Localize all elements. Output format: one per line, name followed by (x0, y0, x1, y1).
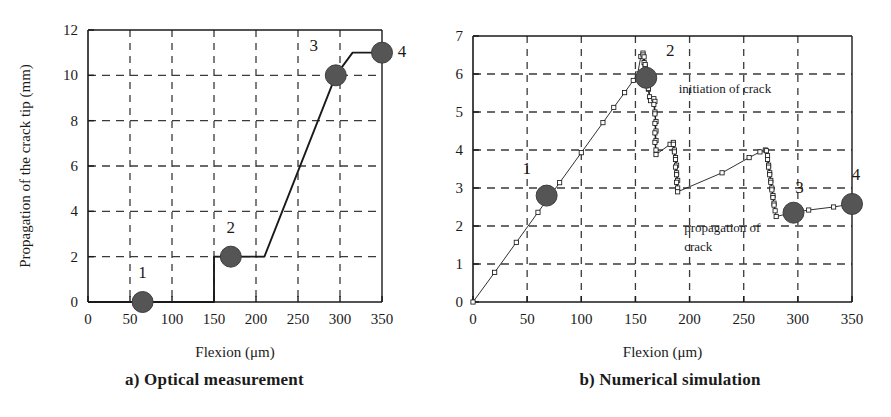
data-point-marker (654, 152, 658, 156)
stage-marker-label: 2 (666, 41, 675, 60)
data-point-marker (747, 156, 751, 160)
data-point-marker (612, 105, 616, 109)
data-point-marker (673, 157, 677, 161)
data-point-marker (631, 78, 635, 82)
stage-marker-label: 4 (398, 42, 407, 61)
data-point-marker (643, 62, 647, 66)
y-tick-label: 8 (71, 113, 79, 129)
data-point-marker (579, 151, 583, 155)
data-point-marker (674, 180, 678, 184)
x-tick-label: 350 (371, 311, 394, 327)
data-point-marker (652, 102, 656, 106)
x-tick-label: 300 (329, 311, 352, 327)
x-tick-label: 200 (678, 311, 701, 327)
data-point-marker (720, 171, 724, 175)
data-point-marker (765, 157, 769, 161)
data-point-marker (653, 121, 657, 125)
data-point-marker (674, 173, 678, 177)
y-tick-label: 0 (71, 294, 79, 310)
x-tick-label: 250 (732, 311, 755, 327)
stage-marker-dot (536, 185, 557, 206)
y-tick-label: 4 (456, 142, 464, 158)
stage-marker-dot (372, 42, 393, 63)
y-tick-label: 7 (456, 28, 464, 44)
x-tick-label: 150 (203, 311, 226, 327)
stage-marker-dot (636, 67, 657, 88)
data-point-marker (831, 205, 835, 209)
chart-annotation: propagation of (684, 220, 761, 235)
y-tick-label: 0 (456, 294, 464, 310)
data-point-marker (807, 208, 811, 212)
x-tick-label: 50 (123, 311, 138, 327)
data-point-marker (774, 214, 778, 218)
data-point-marker (764, 149, 768, 153)
data-point-marker (601, 121, 605, 125)
stage-marker-label: 3 (310, 36, 319, 55)
data-point-marker (623, 91, 627, 95)
data-point-marker (767, 165, 771, 169)
data-point-marker (758, 150, 762, 154)
x-tick-label: 250 (287, 311, 310, 327)
caption-panel-b: b) Numerical simulation (447, 370, 891, 390)
stage-markers: 1234 (132, 36, 407, 312)
x-tick-label: 0 (84, 311, 92, 327)
y-tick-label: 6 (71, 158, 79, 174)
x-tick-label: 100 (161, 311, 184, 327)
chart-panel-numerical-simulation: 05010015020025030035001234567Flexion (μm… (445, 0, 891, 417)
figure-container: 050100150200250300350024681012Flexion (μ… (0, 0, 891, 417)
y-tick-label: 4 (71, 203, 79, 219)
y-tick-label: 5 (456, 104, 464, 120)
data-point-marker (671, 142, 675, 146)
data-point-marker (672, 150, 676, 154)
data-point-marker (514, 240, 518, 244)
data-point-marker (558, 181, 562, 185)
stage-markers: 1234 (522, 41, 862, 223)
y-tick-label: 10 (63, 67, 78, 83)
data-point-marker (676, 190, 680, 194)
y-tick-label: 2 (71, 249, 79, 265)
stage-marker-label: 1 (522, 159, 531, 178)
data-point-marker (673, 165, 677, 169)
stage-marker-dot (132, 292, 153, 313)
x-tick-label: 350 (841, 311, 864, 327)
y-axis-title: Propagation of the crack tip (mm) (17, 64, 34, 268)
data-point-marker (536, 210, 540, 214)
data-point-marker (493, 270, 497, 274)
data-point-marker (773, 209, 777, 213)
x-tick-label: 50 (520, 311, 535, 327)
stage-marker-label: 2 (227, 218, 236, 237)
y-tick-label: 1 (456, 256, 464, 272)
data-point-marker (654, 148, 658, 152)
y-tick-label: 12 (63, 22, 78, 38)
stage-marker-dot (842, 193, 863, 214)
stage-marker-dot (220, 246, 241, 267)
y-tick-label: 3 (456, 180, 464, 196)
stage-marker-dot (783, 202, 804, 223)
data-point-marker (772, 203, 776, 207)
x-tick-label: 200 (245, 311, 268, 327)
x-tick-label: 150 (624, 311, 647, 327)
numerical-simulation-plot: 05010015020025030035001234567Flexion (μm… (445, 0, 891, 365)
y-tick-label: 2 (456, 218, 464, 234)
stage-marker-label: 1 (138, 263, 147, 282)
data-point-marker (768, 173, 772, 177)
x-tick-label: 300 (787, 311, 810, 327)
y-tick-label: 6 (456, 66, 464, 82)
data-point-marker (653, 131, 657, 135)
x-axis-title: Flexion (μm) (623, 344, 702, 361)
data-point-marker (653, 112, 657, 116)
data-point-marker (642, 55, 646, 59)
data-point-marker (471, 300, 475, 304)
stage-marker-label: 4 (852, 165, 861, 184)
optical-measurement-plot: 050100150200250300350024681012Flexion (μ… (0, 0, 445, 365)
stage-marker-dot (325, 65, 346, 86)
chart-annotation: crack (684, 239, 713, 254)
x-tick-label: 0 (469, 311, 477, 327)
data-point-marker (770, 188, 774, 192)
data-point-marker (653, 140, 657, 144)
chart-panel-optical-measurement: 050100150200250300350024681012Flexion (μ… (0, 0, 445, 417)
chart-annotation: initiation of crack (679, 81, 772, 96)
data-point-marker (771, 195, 775, 199)
x-tick-label: 100 (570, 311, 593, 327)
stage-marker-label: 3 (795, 178, 804, 197)
